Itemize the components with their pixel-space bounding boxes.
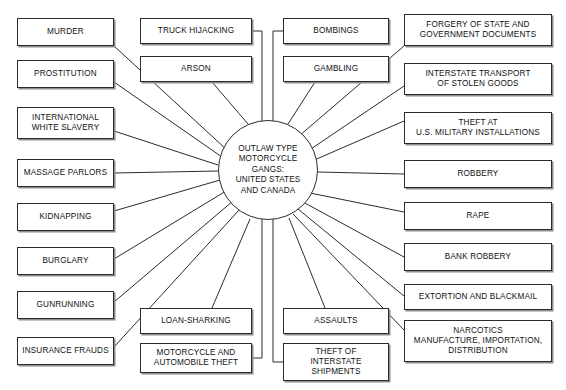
node-box-arson[interactable]: ARSON <box>140 56 252 82</box>
node-box-rape[interactable]: RAPE <box>404 202 552 230</box>
node-box-loan-sharking[interactable]: LOAN-SHARKING <box>140 308 252 334</box>
edge-military-theft-to-center <box>312 121 404 161</box>
node-label-interstate-stolen-goods: INTERSTATE TRANSPORT OF STOLEN GOODS <box>423 69 532 89</box>
node-box-kidnapping[interactable]: KIDNAPPING <box>17 203 114 231</box>
node-box-robbery[interactable]: ROBBERY <box>404 160 552 188</box>
node-box-white-slavery[interactable]: INTERNATIONAL WHITE SLAVERY <box>17 107 114 139</box>
edge-interstate-ship-to-center <box>273 213 283 362</box>
node-label-truck-hijacking: TRUCK HIJACKING <box>156 26 236 36</box>
node-box-military-theft[interactable]: THEFT AT U.S. MILITARY INSTALLATIONS <box>404 112 552 144</box>
node-label-assaults: ASSAULTS <box>312 316 359 326</box>
node-label-insurance: INSURANCE FRAUDS <box>20 346 111 356</box>
center-node[interactable]: OUTLAW TYPE MOTORCYCLE GANGS: UNITED STA… <box>218 120 318 220</box>
edge-prostitution-to-center <box>114 82 222 157</box>
edge-loan-to-center <box>212 219 250 308</box>
node-label-kidnapping: KIDNAPPING <box>37 212 93 222</box>
node-box-gambling[interactable]: GAMBLING <box>283 56 389 82</box>
node-label-burglary: BURGLARY <box>40 256 90 266</box>
node-label-military-theft: THEFT AT U.S. MILITARY INSTALLATIONS <box>414 118 542 138</box>
node-box-motorcycle-auto-theft[interactable]: MOTORCYCLE AND AUTOMOBILE THEFT <box>140 343 252 373</box>
edge-burglary-to-center <box>114 191 226 259</box>
edge-kidnapping-to-center <box>114 180 220 211</box>
edge-gunrunning-to-center <box>114 201 233 302</box>
node-box-forgery[interactable]: FORGERY OF STATE AND GOVERNMENT DOCUMENT… <box>404 14 552 46</box>
node-label-murder: MURDER <box>45 27 86 37</box>
edge-bank-robbery-to-center <box>303 202 404 257</box>
edge-robbery-to-center <box>318 172 404 174</box>
node-box-gunrunning[interactable]: GUNRUNNING <box>17 291 114 319</box>
node-label-bank-robbery: BANK ROBBERY <box>443 252 513 262</box>
node-box-bombings[interactable]: BOMBINGS <box>283 18 389 44</box>
node-label-prostitution: PROSTITUTION <box>32 69 99 79</box>
node-label-gunrunning: GUNRUNNING <box>35 300 97 310</box>
node-label-forgery: FORGERY OF STATE AND GOVERNMENT DOCUMENT… <box>418 20 539 40</box>
edge-arson-to-center <box>212 82 248 124</box>
node-label-bombings: BOMBINGS <box>311 26 360 36</box>
edge-assaults-to-center <box>289 218 325 308</box>
node-label-theft-interstate-shipments: THEFT OF INTERSTATE SHIPMENTS <box>308 347 363 378</box>
node-box-burglary[interactable]: BURGLARY <box>17 247 114 275</box>
node-label-extortion: EXTORTION AND BLACKMAIL <box>417 292 539 302</box>
edge-white-slavery-to-center <box>114 131 218 165</box>
edge-moto-theft-to-center <box>252 214 262 358</box>
node-box-theft-interstate-shipments[interactable]: THEFT OF INTERSTATE SHIPMENTS <box>283 343 389 381</box>
node-box-massage[interactable]: MASSAGE PARLORS <box>17 159 114 187</box>
node-box-prostitution[interactable]: PROSTITUTION <box>17 60 114 88</box>
edge-truck-to-center <box>252 31 262 128</box>
node-box-extortion[interactable]: EXTORTION AND BLACKMAIL <box>404 284 552 310</box>
edge-extortion-to-center <box>298 209 404 296</box>
center-node-label: OUTLAW TYPE MOTORCYCLE GANGS: UNITED STA… <box>236 144 301 196</box>
diagram-canvas: OUTLAW TYPE MOTORCYCLE GANGS: UNITED STA… <box>0 0 566 390</box>
node-label-motorcycle-auto-theft: MOTORCYCLE AND AUTOMOBILE THEFT <box>152 348 240 368</box>
node-box-narcotics[interactable]: NARCOTICS MANUFACTURE, IMPORTATION, DIST… <box>404 320 552 362</box>
node-label-gambling: GAMBLING <box>312 64 360 74</box>
node-label-massage: MASSAGE PARLORS <box>22 168 110 178</box>
node-label-white-slavery: INTERNATIONAL WHITE SLAVERY <box>30 113 102 133</box>
node-label-rape: RAPE <box>465 211 492 221</box>
node-box-insurance[interactable]: INSURANCE FRAUDS <box>17 337 114 365</box>
node-label-loan-sharking: LOAN-SHARKING <box>159 316 233 326</box>
node-box-bank-robbery[interactable]: BANK ROBBERY <box>404 243 552 271</box>
node-box-truck-hijacking[interactable]: TRUCK HIJACKING <box>140 18 252 44</box>
node-label-narcotics: NARCOTICS MANUFACTURE, IMPORTATION, DIST… <box>412 326 544 357</box>
edge-rape-to-center <box>310 193 404 212</box>
edge-massage-to-center <box>114 171 218 173</box>
node-label-arson: ARSON <box>179 64 213 74</box>
node-box-assaults[interactable]: ASSAULTS <box>283 308 389 334</box>
edge-bombings-to-center <box>273 31 283 125</box>
node-box-murder[interactable]: MURDER <box>17 18 114 46</box>
edge-stolen-goods-to-center <box>308 86 404 151</box>
node-label-robbery: ROBBERY <box>456 169 501 179</box>
node-box-interstate-stolen-goods[interactable]: INTERSTATE TRANSPORT OF STOLEN GOODS <box>404 63 552 95</box>
edge-gambling-to-center <box>288 82 315 124</box>
